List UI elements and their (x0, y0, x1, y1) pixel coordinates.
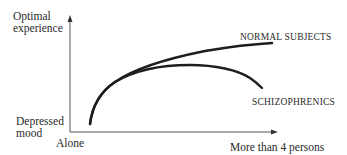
y-axis-arrow-icon (68, 15, 73, 22)
normal-subjects-curve (90, 43, 272, 124)
schizophrenics-curve (90, 65, 262, 124)
x-axis-arrow-icon (271, 130, 278, 135)
chart-canvas (0, 0, 347, 155)
